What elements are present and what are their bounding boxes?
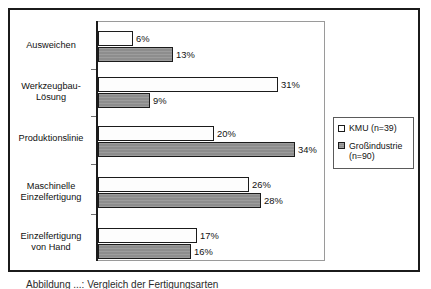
legend-label-kmu: KMU (n=39) [349, 123, 397, 133]
bar-value-gross-einzelfertigung-hand: 16% [191, 244, 213, 259]
bar-gross-werkzeugbau[interactable] [98, 93, 150, 108]
bar-gross-produktionslinie[interactable] [98, 142, 295, 157]
bar-gross-einzelfertigung-hand[interactable] [98, 244, 191, 259]
bar-value-kmu-einzelfertigung-hand: 17% [197, 228, 219, 243]
bar-kmu-produktionslinie[interactable] [98, 126, 214, 141]
category-label-maschinelle: Maschinelle Einzelfertigung [10, 181, 92, 203]
legend-swatch-kmu-icon [338, 125, 345, 132]
figure-container: Ausweichen 6% 13% Werkzeugbau- Lösung 31… [0, 0, 431, 289]
bar-value-kmu-werkzeugbau: 31% [278, 77, 300, 92]
bar-value-gross-maschinelle: 28% [261, 193, 283, 208]
category-label-ausweichen: Ausweichen [10, 40, 92, 51]
bar-value-kmu-ausweichen: 6% [133, 31, 150, 46]
legend-swatch-grossindustrie-icon [338, 142, 345, 149]
bar-value-kmu-maschinelle: 26% [249, 177, 271, 192]
category-label-werkzeugbau: Werkzeugbau- Lösung [10, 81, 92, 103]
chart-legend: KMU (n=39) Großindustrie (n=90) [333, 117, 414, 169]
bar-value-gross-ausweichen: 13% [173, 47, 195, 62]
legend-label-grossindustrie-line1: Großindustrie [349, 141, 402, 151]
axis-tick-2 [91, 116, 96, 117]
bar-kmu-maschinelle[interactable] [98, 177, 249, 192]
bar-kmu-einzelfertigung-hand[interactable] [98, 228, 197, 243]
legend-label-grossindustrie-line2: (n=90) [349, 151, 409, 162]
bar-value-kmu-produktionslinie: 20% [214, 126, 236, 141]
bar-value-gross-produktionslinie: 34% [295, 142, 317, 157]
bar-value-gross-werkzeugbau: 9% [150, 93, 167, 108]
bar-kmu-werkzeugbau[interactable] [98, 77, 278, 92]
axis-tick-4 [91, 214, 96, 215]
bar-kmu-ausweichen[interactable] [98, 31, 133, 46]
legend-entry-kmu[interactable]: KMU (n=39) [338, 123, 409, 134]
axis-tick-3 [91, 164, 96, 165]
legend-entry-grossindustrie[interactable]: Großindustrie (n=90) [338, 141, 409, 162]
bar-gross-maschinelle[interactable] [98, 193, 261, 208]
category-label-einzelfertigung-hand: Einzelfertigung von Hand [10, 231, 92, 253]
axis-tick-1 [91, 69, 96, 70]
bar-gross-ausweichen[interactable] [98, 47, 173, 62]
figure-caption: Abbildung ...: Vergleich der Fertigungsa… [26, 279, 218, 289]
category-label-produktionslinie: Produktionslinie [10, 133, 92, 144]
